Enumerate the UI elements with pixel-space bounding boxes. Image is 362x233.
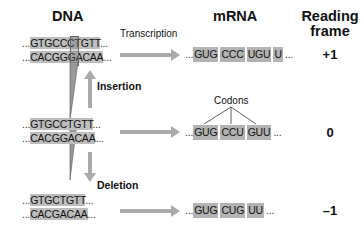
mrna-original: ...GUGCCUGUU... bbox=[185, 125, 282, 140]
dna-strand-top-deletion: ...GTGCTGTT... bbox=[22, 194, 93, 207]
codon: U bbox=[273, 47, 282, 62]
transcription-arrow-icon bbox=[120, 53, 172, 57]
reading-frame-insertion: +1 bbox=[310, 47, 350, 62]
dna-strand-bottom-deletion: ...CACGACAA... bbox=[22, 208, 96, 221]
ellipsis: ... bbox=[100, 37, 108, 49]
reading-frame-header: Reading frame bbox=[300, 9, 360, 39]
ellipsis: ... bbox=[266, 204, 274, 216]
ellipsis: ... bbox=[185, 126, 193, 138]
deletion-label: Deletion bbox=[97, 179, 138, 191]
ellipsis: ... bbox=[185, 48, 193, 60]
ellipsis: ... bbox=[22, 194, 30, 206]
codon: GUG bbox=[193, 47, 218, 62]
ellipsis: ... bbox=[22, 118, 30, 130]
transcription-label: Transcription bbox=[120, 28, 177, 39]
ellipsis: ... bbox=[85, 194, 93, 206]
dna-sequence: GTGCCTGTT bbox=[30, 118, 92, 130]
codon: UGU bbox=[247, 47, 272, 62]
dna-header: DNA bbox=[52, 9, 83, 24]
mrna-header: mRNA bbox=[213, 9, 257, 24]
codon: CCC bbox=[220, 47, 244, 62]
codon: GUG bbox=[193, 203, 218, 218]
ellipsis: ... bbox=[22, 37, 30, 49]
deletion-arrow-icon bbox=[88, 152, 92, 174]
dna-strand-top-insertion: ...GTGCCCTGTT... bbox=[22, 37, 108, 50]
codon: GUU bbox=[247, 125, 272, 140]
codon-pointer-lines-icon bbox=[190, 106, 260, 126]
codon: CCU bbox=[220, 125, 244, 140]
codon: UU bbox=[247, 203, 264, 218]
dna-strand-bottom-original: ...CACGGACAA... bbox=[22, 132, 104, 145]
ellipsis: ... bbox=[22, 51, 30, 63]
transcription-arrow-icon bbox=[120, 130, 172, 134]
dna-sequence: GTGCCCTGTT bbox=[30, 37, 100, 49]
insertion-label: Insertion bbox=[97, 80, 141, 92]
ellipsis: ... bbox=[22, 132, 30, 144]
reading-frame-header-line1: Reading bbox=[300, 9, 360, 24]
codons-label: Codons bbox=[214, 95, 248, 106]
mrna-deletion: ...GUGCUGUU... bbox=[185, 203, 274, 218]
ellipsis: ... bbox=[103, 51, 111, 63]
reading-frame-deletion: –1 bbox=[310, 203, 350, 218]
transcription-arrow-icon bbox=[120, 209, 172, 213]
dna-sequence: GTGCTGTT bbox=[30, 194, 85, 206]
dna-sequence: CACGGACAA bbox=[30, 132, 95, 144]
reading-frame-original: 0 bbox=[310, 125, 350, 140]
reading-frame-header-line2: frame bbox=[300, 24, 360, 39]
insertion-arrow-icon bbox=[88, 78, 92, 108]
codon: GUG bbox=[193, 125, 218, 140]
ellipsis: ... bbox=[22, 208, 30, 220]
mrna-insertion: ...GUGCCCUGUU... bbox=[185, 47, 293, 62]
ellipsis: ... bbox=[285, 48, 293, 60]
dna-strand-top-original: ...GTGCCTGTT... bbox=[22, 118, 101, 131]
codon: CUG bbox=[220, 203, 245, 218]
ellipsis: ... bbox=[95, 132, 103, 144]
ellipsis: ... bbox=[273, 126, 281, 138]
ellipsis: ... bbox=[93, 118, 101, 130]
ellipsis: ... bbox=[88, 208, 96, 220]
dna-sequence: CACGACAA bbox=[30, 208, 87, 220]
ellipsis: ... bbox=[185, 204, 193, 216]
